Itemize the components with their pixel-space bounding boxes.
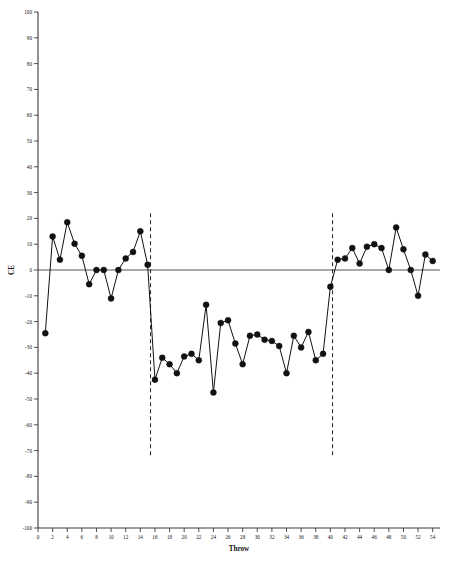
data-point [232,341,238,347]
data-point [145,262,151,268]
x-tick-label: 32 [269,534,275,540]
data-point [305,329,311,335]
y-tick-label: 70 [27,86,33,92]
x-tick-label: 16 [152,534,158,540]
line-chart: 1009080706050403020100-10-20-30-40-50-60… [0,0,454,569]
x-tick-label: 0 [37,534,40,540]
data-point [379,245,385,251]
x-tick-label: 28 [240,534,246,540]
y-tick-label: -30 [25,344,32,350]
y-tick-label: 90 [27,35,33,41]
data-point [101,267,107,273]
data-point [152,377,158,383]
y-tick-label: -10 [25,293,32,299]
y-tick-label: -70 [25,448,32,454]
data-point [218,320,224,326]
y-tick-label: 80 [27,61,33,67]
y-tick-label: -20 [25,319,32,325]
data-point [196,357,202,363]
data-point [254,332,260,338]
x-tick-label: 54 [430,534,436,540]
data-point [386,267,392,273]
y-tick-label: 20 [27,215,33,221]
x-tick-label: 10 [108,534,114,540]
data-point [50,233,56,239]
x-tick-label: 26 [225,534,231,540]
y-tick-label: -40 [25,370,32,376]
x-axis-group: 0246810121416182022242628303234363840424… [37,528,440,553]
data-point [79,253,85,259]
x-tick-label: 8 [95,534,98,540]
y-tick-label: -50 [25,396,32,402]
data-point [247,333,253,339]
y-tick-label: -100 [22,525,32,531]
data-point [188,351,194,357]
y-tick-label: 10 [27,241,33,247]
data-point [225,317,231,323]
y-axis-title: CE [8,265,16,275]
x-tick-label: 12 [123,534,129,540]
data-point [364,244,370,250]
x-tick-label: 24 [211,534,217,540]
x-tick-label: 46 [372,534,378,540]
x-tick-label: 30 [255,534,261,540]
data-point [357,261,363,267]
data-point [415,293,421,299]
data-point [342,255,348,261]
x-tick-label: 34 [284,534,290,540]
x-tick-label: 42 [342,534,348,540]
data-point [130,249,136,255]
x-tick-label: 2 [51,534,54,540]
data-point [422,252,428,258]
x-tick-label: 36 [299,534,305,540]
data-point [115,267,121,273]
y-tick-label: -90 [25,499,32,505]
y-tick-label: -60 [25,422,32,428]
data-point [371,241,377,247]
data-point [291,333,297,339]
y-tick-label: 30 [27,190,33,196]
data-point [181,353,187,359]
data-point [174,370,180,376]
y-tick-label: 100 [24,9,32,15]
x-tick-label: 14 [138,534,144,540]
data-point [93,267,99,273]
data-point [298,344,304,350]
x-tick-label: 50 [401,534,407,540]
data-point [159,355,165,361]
data-point [167,361,173,367]
x-axis-title: Throw [229,545,250,553]
data-point [123,255,129,261]
data-point [430,258,436,264]
data-point [137,228,143,234]
x-tick-label: 44 [357,534,363,540]
y-tick-label: -80 [25,473,32,479]
data-point [276,343,282,349]
x-tick-label: 20 [182,534,188,540]
y-tick-label: 50 [27,138,33,144]
x-tick-label: 52 [415,534,421,540]
data-series-line [45,222,432,392]
data-point-markers [42,219,435,395]
x-axis-ticks: 0246810121416182022242628303234363840424… [37,528,436,540]
y-tick-label: 0 [29,267,32,273]
data-point [108,295,114,301]
data-point [203,302,209,308]
chart-container: 1009080706050403020100-10-20-30-40-50-60… [0,0,454,569]
data-point [42,330,48,336]
x-tick-label: 4 [66,534,69,540]
data-point [313,357,319,363]
data-point [284,370,290,376]
x-tick-label: 22 [196,534,202,540]
data-point [320,351,326,357]
y-tick-label: 40 [27,164,33,170]
data-point [335,257,341,263]
data-point [400,246,406,252]
y-tick-label: 60 [27,112,33,118]
x-tick-label: 6 [81,534,84,540]
data-point [262,337,268,343]
y-axis-group: 1009080706050403020100-10-20-30-40-50-60… [8,9,38,531]
data-point [64,219,70,225]
data-point [349,245,355,251]
phase-divider-lines [151,213,333,456]
